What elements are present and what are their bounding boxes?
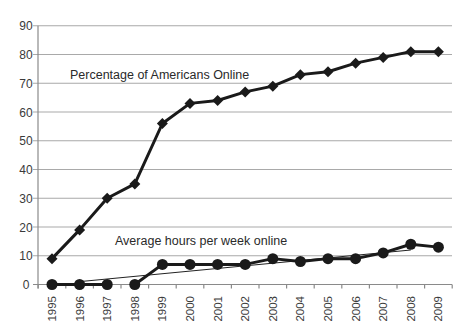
circle-marker <box>405 239 416 250</box>
circle-marker <box>240 259 251 270</box>
line-chart: 0102030405060708090 19951996199719981999… <box>0 0 462 335</box>
circle-marker <box>74 279 85 290</box>
y-tick-label: 70 <box>19 77 33 91</box>
y-tick-label: 40 <box>19 163 33 177</box>
y-tick-label: 80 <box>19 48 33 62</box>
y-tick-label: 0 <box>23 278 30 292</box>
diamond-marker <box>129 178 140 189</box>
diamond-marker <box>350 58 361 69</box>
x-tick-label: 1995 <box>46 296 58 322</box>
circle-marker <box>323 253 334 264</box>
diamond-marker <box>405 46 416 57</box>
circle-marker <box>350 253 361 264</box>
y-tick-label: 50 <box>19 134 33 148</box>
diamond-marker <box>267 81 278 92</box>
x-tick-label: 1999 <box>156 296 168 322</box>
y-axis: 0102030405060708090 <box>19 19 38 292</box>
series-line <box>135 244 439 284</box>
x-tick-label: 2008 <box>405 296 417 322</box>
x-tick-label: 1996 <box>74 296 86 322</box>
y-tick-label: 20 <box>19 221 33 235</box>
y-tick-label: 30 <box>19 192 33 206</box>
x-tick-label: 2002 <box>239 296 251 322</box>
annotation-hours-per-week: Average hours per week online <box>115 234 287 248</box>
x-tick-label: 2006 <box>350 296 362 322</box>
diamond-marker <box>323 66 334 77</box>
circle-marker <box>129 279 140 290</box>
x-tick-label: 2000 <box>184 296 196 322</box>
x-tick-label: 2007 <box>377 296 389 322</box>
diamond-marker <box>295 69 306 80</box>
diamond-marker <box>378 52 389 63</box>
x-tick-label: 1998 <box>129 296 141 322</box>
y-tick-label: 90 <box>19 19 33 33</box>
y-tick-label: 60 <box>19 106 33 120</box>
circle-marker <box>295 256 306 267</box>
x-axis: 1995199619971998199920002001200220032004… <box>38 285 452 322</box>
circle-marker <box>378 247 389 258</box>
annotation-percentage-online: Percentage of Americans Online <box>70 68 249 82</box>
x-tick-label: 2004 <box>294 295 306 321</box>
circle-marker <box>185 259 196 270</box>
diamond-marker <box>212 95 223 106</box>
circle-marker <box>267 253 278 264</box>
x-tick-label: 2003 <box>267 296 279 322</box>
circle-marker <box>433 242 444 253</box>
x-tick-label: 2001 <box>212 296 224 322</box>
diamond-marker <box>433 46 444 57</box>
x-tick-label: 1997 <box>101 296 113 322</box>
circle-marker <box>102 279 113 290</box>
circle-marker <box>47 279 58 290</box>
y-tick-label: 10 <box>19 249 33 263</box>
circle-marker <box>212 259 223 270</box>
diamond-marker <box>240 86 251 97</box>
x-tick-label: 2005 <box>322 296 334 322</box>
x-tick-label: 2009 <box>432 296 444 322</box>
circle-marker <box>157 259 168 270</box>
